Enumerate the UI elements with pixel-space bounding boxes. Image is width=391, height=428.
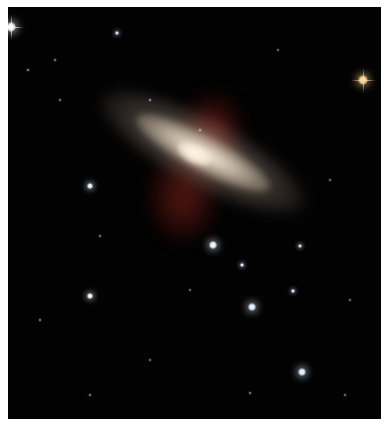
diffraction-spike xyxy=(11,15,12,40)
star xyxy=(199,129,201,131)
star xyxy=(89,394,91,396)
star xyxy=(59,99,61,101)
star xyxy=(349,299,351,301)
star xyxy=(249,392,251,394)
star xyxy=(298,368,306,376)
star xyxy=(54,59,56,61)
star xyxy=(99,235,101,237)
star xyxy=(115,31,119,35)
star xyxy=(298,244,302,248)
star xyxy=(27,69,29,71)
star xyxy=(277,49,279,51)
star xyxy=(344,394,346,396)
star xyxy=(240,263,244,267)
star xyxy=(149,99,151,101)
star xyxy=(209,241,217,249)
star xyxy=(87,293,93,299)
star xyxy=(248,303,256,311)
star xyxy=(329,179,331,181)
star xyxy=(291,289,295,293)
star xyxy=(189,289,191,291)
galaxy-photo xyxy=(8,7,381,419)
star xyxy=(149,359,151,361)
star xyxy=(87,183,93,189)
diffraction-spike xyxy=(363,68,364,93)
star xyxy=(39,319,41,321)
